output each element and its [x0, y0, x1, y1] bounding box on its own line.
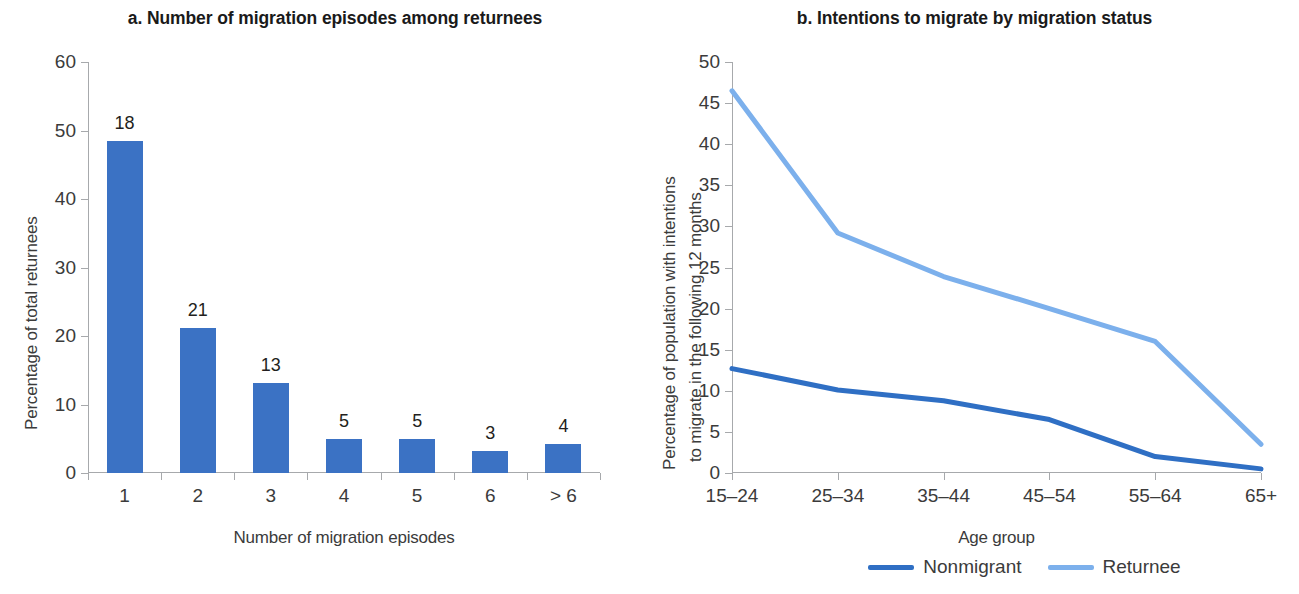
- x-tick-label: 4: [339, 485, 350, 507]
- x-tick-mark: [1155, 473, 1156, 480]
- y-tick-label: 50: [55, 120, 76, 142]
- legend-label: Returnee: [1103, 556, 1181, 578]
- x-tick-mark: [600, 473, 601, 480]
- y-tick-mark: [81, 473, 88, 474]
- x-tick-label: 5: [412, 485, 423, 507]
- y-tick-mark: [725, 268, 732, 269]
- y-tick-label: 20: [55, 325, 76, 347]
- y-tick-label: 25: [699, 257, 720, 279]
- y-tick-label: 10: [699, 380, 720, 402]
- figure-container: a. Number of migration episodes among re…: [0, 0, 1299, 594]
- y-tick-mark: [725, 309, 732, 310]
- y-tick-mark: [81, 405, 88, 406]
- y-tick-label: 45: [699, 92, 720, 114]
- bar: [472, 451, 508, 473]
- x-tick-label: 65+: [1245, 485, 1277, 507]
- x-tick-mark: [838, 473, 839, 480]
- y-tick-mark: [725, 473, 732, 474]
- y-tick-label: 40: [55, 188, 76, 210]
- y-tick-mark: [725, 391, 732, 392]
- panel-a-x-axis-label: Number of migration episodes: [88, 528, 600, 548]
- x-tick-mark: [944, 473, 945, 480]
- x-tick-label: 55–64: [1129, 485, 1182, 507]
- x-tick-mark: [1049, 473, 1050, 480]
- panel-a-y-axis-label: Percentage of total returnees: [22, 217, 42, 430]
- y-tick-label: 15: [699, 339, 720, 361]
- panel-b-plot-area: 05101520253035404550 15–2425–3435–4445–5…: [732, 62, 1261, 473]
- legend-color-swatch: [1048, 565, 1094, 570]
- bar-value-label: 3: [485, 423, 495, 444]
- y-tick-label: 0: [709, 462, 720, 484]
- x-tick-mark: [88, 473, 89, 480]
- bar-value-label: 21: [188, 300, 208, 321]
- y-tick-mark: [725, 226, 732, 227]
- y-tick-label: 30: [55, 257, 76, 279]
- y-tick-mark: [81, 131, 88, 132]
- y-tick-label: 30: [699, 215, 720, 237]
- panel-b-series-lines: [732, 62, 1261, 473]
- y-tick-mark: [81, 268, 88, 269]
- bar-value-label: 18: [115, 113, 135, 134]
- y-tick-label: 60: [55, 51, 76, 73]
- x-tick-label: 6: [485, 485, 496, 507]
- bar: [180, 328, 216, 473]
- y-tick-label: 50: [699, 51, 720, 73]
- bar: [399, 439, 435, 473]
- panel-b-y-axis-label-line1: Percentage of population with intentions: [660, 177, 680, 471]
- panel-b-line-chart: b. Intentions to migrate by migration st…: [640, 0, 1299, 594]
- x-tick-mark: [1261, 473, 1262, 480]
- y-tick-mark: [725, 350, 732, 351]
- legend-label: Nonmigrant: [923, 556, 1021, 578]
- x-tick-label: 35–44: [917, 485, 970, 507]
- y-tick-label: 35: [699, 174, 720, 196]
- x-tick-mark: [454, 473, 455, 480]
- x-tick-label: 15–24: [706, 485, 759, 507]
- x-tick-mark: [381, 473, 382, 480]
- bar-value-label: 5: [339, 411, 349, 432]
- series-line: [732, 91, 1261, 444]
- panel-a-plot-area: 0102030405060 123456> 6 1821135534: [88, 62, 600, 473]
- y-tick-label: 40: [699, 133, 720, 155]
- x-tick-label: 1: [119, 485, 130, 507]
- x-tick-mark: [307, 473, 308, 480]
- legend-color-swatch: [868, 565, 914, 570]
- panel-a-bar-chart: a. Number of migration episodes among re…: [0, 0, 640, 594]
- y-tick-mark: [725, 103, 732, 104]
- bar-value-label: 13: [261, 355, 281, 376]
- y-tick-mark: [725, 144, 732, 145]
- x-tick-label: 45–54: [1023, 485, 1076, 507]
- panel-b-title: b. Intentions to migrate by migration st…: [640, 8, 1299, 29]
- x-tick-label: > 6: [550, 485, 577, 507]
- legend-item[interactable]: Nonmigrant: [868, 556, 1021, 578]
- panel-b-x-axis-label: Age group: [732, 528, 1261, 548]
- bar-value-label: 5: [412, 411, 422, 432]
- y-tick-mark: [81, 62, 88, 63]
- bar: [326, 439, 362, 473]
- panel-b-legend: NonmigrantReturnee: [640, 556, 1299, 578]
- y-tick-label: 5: [709, 421, 720, 443]
- y-tick-label: 20: [699, 298, 720, 320]
- bar: [545, 444, 581, 473]
- x-tick-mark: [527, 473, 528, 480]
- y-tick-mark: [81, 336, 88, 337]
- panel-a-title: a. Number of migration episodes among re…: [0, 8, 640, 29]
- bar-value-label: 4: [558, 416, 568, 437]
- x-tick-mark: [234, 473, 235, 480]
- y-tick-label: 0: [65, 462, 76, 484]
- y-tick-mark: [81, 199, 88, 200]
- bar: [107, 141, 143, 473]
- bar: [253, 383, 289, 473]
- x-tick-label: 3: [266, 485, 277, 507]
- legend-item[interactable]: Returnee: [1048, 556, 1181, 578]
- series-line: [732, 369, 1261, 469]
- y-tick-mark: [725, 432, 732, 433]
- x-tick-mark: [732, 473, 733, 480]
- y-tick-label: 10: [55, 394, 76, 416]
- x-tick-label: 2: [192, 485, 203, 507]
- y-tick-mark: [725, 185, 732, 186]
- y-tick-mark: [725, 62, 732, 63]
- panel-a-y-axis-line: [88, 62, 89, 473]
- x-tick-mark: [161, 473, 162, 480]
- x-tick-label: 25–34: [811, 485, 864, 507]
